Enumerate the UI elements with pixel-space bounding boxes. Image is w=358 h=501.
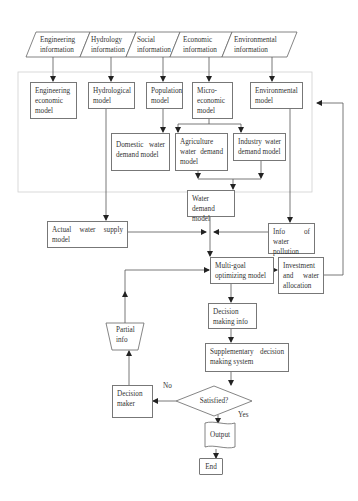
actual-water-supply-model: Actual water supply model	[47, 221, 128, 248]
partial-info-label: Partial info	[116, 325, 140, 345]
supplementary-decision-making-system: Supplementary decision making system	[205, 343, 289, 372]
industry-water-demand-model: Industry water demand model	[233, 133, 286, 161]
hydrology-info-label: Hydrology information	[91, 35, 131, 55]
info-water-pollution: Info of water pollution	[268, 223, 315, 254]
social-info-label: Social information	[137, 35, 173, 55]
agriculture-water-demand-model: Agriculture water demand model	[175, 133, 228, 171]
multi-goal-optimizing-model: Multi-goal optimizing model	[210, 257, 274, 284]
no-label: No	[163, 381, 172, 391]
micro-economic-model: Micro-economic model	[192, 82, 233, 119]
output-label: Output	[205, 430, 235, 440]
satisfied-label: Satisfied?	[190, 396, 238, 406]
environmental-model: Environmental model	[250, 82, 303, 109]
engineering-info-label: Engineering information	[40, 35, 82, 55]
water-demand-model: Water demand model	[187, 190, 235, 217]
population-model: Population model	[146, 82, 183, 109]
yes-label: Yes	[238, 410, 248, 420]
investment-water-allocation: Investment and water allocation	[278, 257, 324, 294]
hydrological-model: Hydrological model	[88, 82, 135, 109]
environmental-info-label: Environmental information	[234, 35, 284, 55]
end-box: End	[199, 458, 223, 475]
economic-info-label: Economic information	[183, 35, 223, 55]
decision-maker: Decision maker	[112, 385, 153, 418]
domestic-water-demand-model: Domestic water demand model	[111, 133, 170, 171]
decision-making-info: Decision making info	[208, 303, 257, 329]
engineering-economic-model: Engineering economic model	[30, 82, 77, 119]
